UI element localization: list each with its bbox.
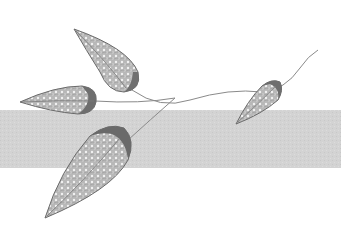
top-left-leaf xyxy=(74,29,139,92)
left-leaf xyxy=(20,86,96,114)
branch-illustration xyxy=(0,0,341,242)
band-texture xyxy=(0,110,341,168)
illustration-canvas xyxy=(0,0,341,242)
